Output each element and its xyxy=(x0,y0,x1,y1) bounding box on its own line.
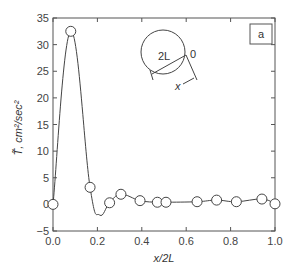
data-point-marker xyxy=(116,189,126,199)
data-point-marker xyxy=(161,197,171,207)
chart: 0.00.20.40.60.81.0 −505101520253035 x/2L… xyxy=(0,0,294,269)
x-tick-label: 0.8 xyxy=(223,235,238,247)
y-tick-label: 15 xyxy=(37,119,49,131)
y-axis-tick-labels: −505101520253035 xyxy=(36,12,49,237)
data-point-marker xyxy=(270,199,280,209)
data-point-marker xyxy=(105,198,115,208)
data-point-marker xyxy=(85,182,95,192)
svg-text:a: a xyxy=(258,28,265,40)
data-point-marker xyxy=(231,197,241,207)
data-point-marker xyxy=(48,199,58,209)
data-point-marker xyxy=(192,197,202,207)
inset-label-2L: 2L xyxy=(158,50,170,62)
y-tick-label: 35 xyxy=(37,12,49,24)
inset-x-bracket xyxy=(183,78,194,84)
y-tick-label: 20 xyxy=(37,92,49,104)
x-axis-tick-labels: 0.00.20.40.60.81.0 xyxy=(45,235,282,247)
data-point-marker xyxy=(66,26,76,36)
x-tick-label: 0.6 xyxy=(179,235,194,247)
y-tick-label: 25 xyxy=(37,65,49,77)
panel-label: a xyxy=(250,24,272,44)
x-axis-label: x/2L xyxy=(153,252,175,264)
inset-label-origin: 0 xyxy=(190,48,196,60)
x-tick-label: 1.0 xyxy=(267,235,282,247)
x-tick-label: 0.2 xyxy=(90,235,105,247)
y-axis-label: T̃, cm²/sec² xyxy=(12,100,24,155)
data-point-marker xyxy=(135,196,145,206)
y-tick-label: 5 xyxy=(43,172,49,184)
data-point-marker xyxy=(212,195,222,205)
y-tick-label: −5 xyxy=(36,225,49,237)
inset-label-x: x xyxy=(174,80,181,92)
x-tick-label: 0.4 xyxy=(134,235,149,247)
inset-diagram: 2L 0 x xyxy=(141,30,197,92)
data-point-marker xyxy=(257,194,267,204)
y-tick-label: 10 xyxy=(37,145,49,157)
y-tick-label: 30 xyxy=(37,39,49,51)
